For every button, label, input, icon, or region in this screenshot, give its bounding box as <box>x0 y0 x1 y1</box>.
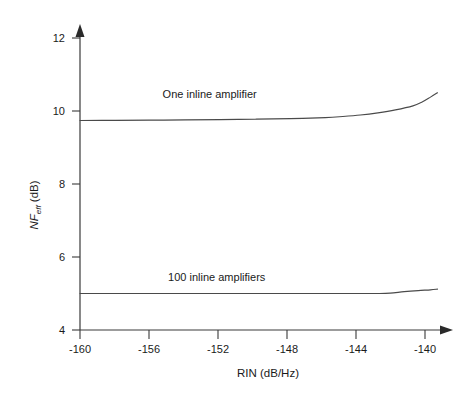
y-axis-title-main: NF <box>28 213 40 229</box>
x-tick-label-neg160: -160 <box>69 343 91 355</box>
series-annotation-100-inline-amplifiers: 100 inline amplifiers <box>168 271 266 283</box>
y-tick-label-12: 12 <box>53 32 65 44</box>
x-tick-label-neg152: -152 <box>207 343 229 355</box>
y-axis-title-unit: (dB) <box>28 180 40 205</box>
x-axis-arrow-icon <box>440 326 453 335</box>
x-axis-ticks <box>80 330 425 339</box>
y-axis-tick-labels: 12 10 8 6 4 <box>53 32 65 336</box>
y-tick-label-8: 8 <box>59 178 65 190</box>
x-tick-label-neg144: -144 <box>345 343 367 355</box>
chart-plot-area: 12 10 8 6 4 -160 -156 -152 -148 -144 -14… <box>0 0 465 396</box>
x-tick-label-neg156: -156 <box>138 343 160 355</box>
x-tick-label-neg148: -148 <box>276 343 298 355</box>
y-tick-label-4: 4 <box>59 324 65 336</box>
y-tick-label-10: 10 <box>53 105 65 117</box>
y-axis-ticks <box>72 38 80 330</box>
series-line-100-inline-amplifiers <box>80 289 437 293</box>
series-line-one-inline-amplifier <box>80 93 437 121</box>
x-axis-tick-labels: -160 -156 -152 -148 -144 -140 <box>69 343 436 355</box>
y-tick-label-6: 6 <box>59 251 65 263</box>
y-axis-arrow-icon <box>76 24 85 37</box>
x-axis-title: RIN (dB/Hz) <box>237 367 299 379</box>
chart-figure: 12 10 8 6 4 -160 -156 -152 -148 -144 -14… <box>0 0 465 396</box>
x-tick-label-neg140: -140 <box>414 343 436 355</box>
series-annotation-one-inline-amplifier: One inline amplifier <box>163 88 257 100</box>
y-axis-title: NFeff (dB) <box>28 180 43 229</box>
